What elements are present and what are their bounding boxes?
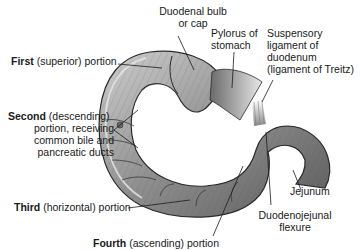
label-first-portion: First (superior) portion	[11, 55, 117, 67]
suspensory-ligament	[252, 100, 266, 126]
label-suspensory-ligament: Suspensory ligament of duodenum (ligamen…	[267, 27, 354, 75]
label-duodenal-bulb: Duodenal bulb or cap	[152, 5, 234, 29]
label-second-portion: Second (descending) portion, receiving c…	[8, 110, 114, 158]
label-duodenojejunal-flexure: Duodenojejunal flexure	[250, 209, 340, 233]
label-third-portion: Third (horizontal) portion	[14, 201, 131, 213]
label-jejunum: Jejunum	[290, 185, 330, 197]
duodenum-diagram: Duodenal bulb or cap Pylorus of stomach …	[0, 0, 362, 250]
label-pylorus: Pylorus of stomach	[211, 27, 258, 51]
label-fourth-portion: Fourth (ascending) portion	[93, 237, 219, 249]
leader-suspensory	[262, 80, 273, 102]
